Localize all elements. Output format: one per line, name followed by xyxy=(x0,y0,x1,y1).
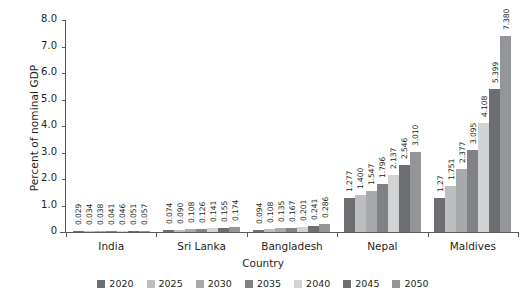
bar-item[interactable]: 0.155 xyxy=(218,20,229,232)
bar[interactable] xyxy=(185,229,196,232)
bar[interactable] xyxy=(355,195,366,232)
bar[interactable] xyxy=(445,186,456,232)
bar[interactable] xyxy=(399,165,410,232)
bar-item[interactable]: 0.051 xyxy=(128,20,139,232)
y-axis-tick-label: 1.0 xyxy=(41,199,57,210)
bar[interactable] xyxy=(174,230,185,232)
legend-item[interactable]: 2040 xyxy=(294,278,330,289)
legend-label: 2035 xyxy=(257,278,281,289)
bar[interactable] xyxy=(297,227,308,232)
legend-swatch-icon xyxy=(343,280,351,288)
bar[interactable] xyxy=(229,227,240,232)
bar-value-label: 3.010 xyxy=(411,125,420,146)
bar-item[interactable]: 0.029 xyxy=(73,20,84,232)
y-axis-tick-label: 0 xyxy=(51,225,57,236)
bar-item[interactable]: 0.286 xyxy=(319,20,330,232)
bar[interactable] xyxy=(106,231,117,232)
bar[interactable] xyxy=(434,198,445,232)
bar[interactable] xyxy=(478,123,489,232)
bar-group: 0.0740.0900.1080.1260.1410.1550.174 xyxy=(156,20,246,232)
bar[interactable] xyxy=(95,231,106,232)
legend-swatch-icon xyxy=(392,280,400,288)
x-axis-category-label: Sri Lanka xyxy=(156,240,246,252)
bar-item[interactable]: 0.094 xyxy=(253,20,264,232)
bar-item[interactable]: 1.547 xyxy=(366,20,377,232)
legend-item[interactable]: 2025 xyxy=(147,278,183,289)
bar-item[interactable]: 0.057 xyxy=(139,20,150,232)
bar[interactable] xyxy=(366,191,377,232)
bar[interactable] xyxy=(218,228,229,232)
legend-item[interactable]: 2030 xyxy=(196,278,232,289)
bar[interactable] xyxy=(117,231,128,232)
bar[interactable] xyxy=(344,198,355,232)
bar-item[interactable]: 1.751 xyxy=(445,20,456,232)
bar-value-label: 5.399 xyxy=(490,62,499,83)
bar-item[interactable]: 3.010 xyxy=(410,20,421,232)
bar[interactable] xyxy=(163,230,174,232)
legend-label: 2040 xyxy=(306,278,330,289)
x-axis-tick-mark xyxy=(337,232,338,237)
bar[interactable] xyxy=(84,231,95,232)
bar[interactable] xyxy=(410,152,421,232)
bar-item[interactable]: 1.796 xyxy=(377,20,388,232)
bar[interactable] xyxy=(128,231,139,232)
bar[interactable] xyxy=(388,175,399,232)
bar-item[interactable]: 0.126 xyxy=(196,20,207,232)
bar-item[interactable]: 0.034 xyxy=(84,20,95,232)
bar-item[interactable]: 0.108 xyxy=(185,20,196,232)
bar[interactable] xyxy=(319,224,330,232)
bar[interactable] xyxy=(467,150,478,232)
legend-swatch-icon xyxy=(147,280,155,288)
plot-area: 0.0290.0340.0380.0410.0460.0510.0570.074… xyxy=(66,20,518,232)
y-axis-tick-label: 5.0 xyxy=(41,93,57,104)
bar-item[interactable]: 2.377 xyxy=(456,20,467,232)
bar-item[interactable]: 4.108 xyxy=(478,20,489,232)
bar-item[interactable]: 0.167 xyxy=(286,20,297,232)
legend-item[interactable]: 2035 xyxy=(245,278,281,289)
legend-item[interactable]: 2020 xyxy=(97,278,133,289)
bar-item[interactable]: 0.201 xyxy=(297,20,308,232)
bar-item[interactable]: 7.380 xyxy=(500,20,511,232)
bar-value-label: 2.546 xyxy=(400,137,409,158)
bar[interactable] xyxy=(275,228,286,232)
legend-label: 2025 xyxy=(159,278,183,289)
bar-item[interactable]: 0.174 xyxy=(229,20,240,232)
bar-value-label: 0.029 xyxy=(74,204,83,225)
bar-value-label: 0.167 xyxy=(287,200,296,221)
bar-item[interactable]: 1.27 xyxy=(434,20,445,232)
bar[interactable] xyxy=(286,228,297,232)
bar-item[interactable]: 0.090 xyxy=(174,20,185,232)
bar-item[interactable]: 2.546 xyxy=(399,20,410,232)
bar-item[interactable]: 0.046 xyxy=(117,20,128,232)
bar[interactable] xyxy=(308,226,319,232)
legend-item[interactable]: 2045 xyxy=(343,278,379,289)
bar-item[interactable]: 0.241 xyxy=(308,20,319,232)
bar-item[interactable]: 1.277 xyxy=(344,20,355,232)
bar-item[interactable]: 2.137 xyxy=(388,20,399,232)
bar[interactable] xyxy=(489,89,500,232)
legend-swatch-icon xyxy=(97,280,105,288)
bar-item[interactable]: 1.400 xyxy=(355,20,366,232)
bar-value-label: 3.095 xyxy=(468,123,477,144)
bar-item[interactable]: 0.038 xyxy=(95,20,106,232)
bar-item[interactable]: 0.074 xyxy=(163,20,174,232)
bar-item[interactable]: 0.141 xyxy=(207,20,218,232)
x-axis-category-label: Maldives xyxy=(428,240,518,252)
bar-item[interactable]: 3.095 xyxy=(467,20,478,232)
bar[interactable] xyxy=(456,169,467,232)
bar[interactable] xyxy=(264,229,275,232)
bar[interactable] xyxy=(196,229,207,232)
bar-cluster: 0.0740.0900.1080.1260.1410.1550.174 xyxy=(156,20,246,232)
bar[interactable] xyxy=(500,36,511,232)
bar-group: 0.0290.0340.0380.0410.0460.0510.057 xyxy=(66,20,156,232)
bar[interactable] xyxy=(73,231,84,232)
bar-item[interactable]: 0.041 xyxy=(106,20,117,232)
bar[interactable] xyxy=(377,184,388,232)
bar-item[interactable]: 0.108 xyxy=(264,20,275,232)
bar-item[interactable]: 0.135 xyxy=(275,20,286,232)
legend-item[interactable]: 2050 xyxy=(392,278,428,289)
bar[interactable] xyxy=(207,228,218,232)
bar[interactable] xyxy=(253,230,264,232)
bar[interactable] xyxy=(139,231,150,233)
bar-item[interactable]: 5.399 xyxy=(489,20,500,232)
